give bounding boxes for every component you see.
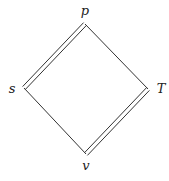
node-label-T: T [157,81,167,96]
node-label-s: s [9,81,16,96]
edge-v-s-single [24,88,86,154]
edge-s-p-double [23,23,87,90]
edge-p-T-single [85,24,148,89]
edge-T-v-double [85,88,150,156]
node-label-p: p [81,3,90,18]
diamond-diagram: p s T v [0,0,169,181]
node-label-v: v [82,158,90,173]
